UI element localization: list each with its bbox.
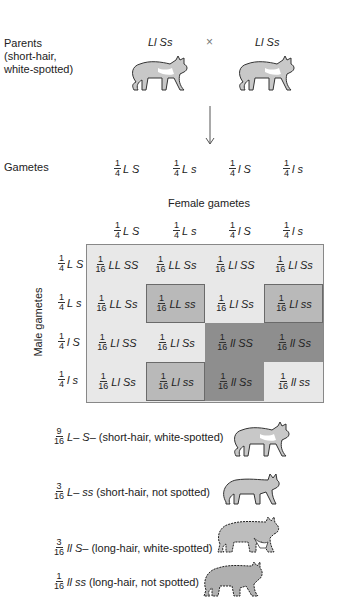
punnett-cell: 116Ll Ss [205,284,264,323]
punnett-cell: 116Ll Ss [146,323,205,362]
punnett-cell: 116LL Ss [146,245,205,284]
gamete-item: 14L s [173,159,197,178]
punnett-cell: 116LL Ss [87,284,146,323]
parent-genotype-left: Ll Ss [148,36,172,49]
phenotype-row: 116 ll ss(long-hair, not spotted) [53,572,199,591]
phenotype-row: 316 ll S–(long-hair, white-spotted) [53,538,212,557]
punnett-cell: 116Ll Ss [87,362,146,401]
parent-genotype-right: Ll Ss [255,36,279,49]
parents-label-line: Parents [4,37,73,50]
phenotype-row: 316 L– ss(short-hair, not spotted) [53,482,210,501]
punnett-cell: 116ll Ss [205,362,264,401]
punnett-cell: 116Ll ss [264,284,323,323]
parents-label-line: white-spotted) [4,63,73,76]
punnett-cell: 116ll ss [264,362,323,401]
parents-label-line: (short-hair, [4,50,73,63]
female-gamete-header: 14L S [114,221,139,240]
long-hair-spotted-cat-icon [216,514,282,554]
male-gamete-header: 14l s [58,370,78,389]
female-gamete-header: 14l s [283,221,303,240]
punnett-cell: 116Ll SS [205,245,264,284]
female-gametes-label: Female gametes [168,197,250,210]
phenotype-row: 916 L– S–(short-hair, white-spotted) [53,427,223,446]
gamete-item: 14L S [114,159,139,178]
punnett-cell: 116Ll ss [146,362,205,401]
male-gamete-header: 14l S [58,332,80,351]
punnett-cell: 116ll SS [205,323,264,362]
punnett-cell: 116ll Ss [264,323,323,362]
punnett-cell: 116LL SS [87,245,146,284]
short-hair-spotted-cat-icon [235,52,297,92]
gametes-label: Gametes [4,161,49,174]
female-gamete-header: 14l S [229,221,251,240]
gamete-item: 14l S [229,159,251,178]
male-gamete-header: 14L S [58,254,83,273]
punnett-square: 116LL SS 116LL Ss 116Ll SS 116Ll Ss 116L… [86,244,324,403]
cross-symbol: × [206,36,213,49]
parents-label: Parents (short-hair, white-spotted) [4,37,73,76]
down-arrow-icon [204,106,216,146]
long-hair-solid-cat-icon [202,560,266,598]
gamete-item: 14l s [283,159,303,178]
punnett-cell: 116Ll Ss [264,245,323,284]
short-hair-spotted-cat-icon [230,418,292,458]
male-gamete-header: 14L s [58,293,82,312]
punnett-cell: 116LL ss [146,284,205,323]
short-hair-solid-cat-icon [220,470,282,506]
male-gametes-label: Male gametes [32,282,44,362]
female-gamete-header: 14L s [173,221,197,240]
punnett-cell: 116Ll SS [87,323,146,362]
short-hair-spotted-cat-icon [128,52,190,92]
